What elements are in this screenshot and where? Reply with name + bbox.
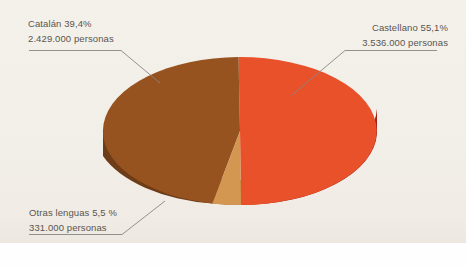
callout-catalan-percent: Catalán 39,4% [28, 16, 114, 31]
callout-otras-count: 331.000 personas [29, 220, 117, 235]
slice-top-catalan [103, 57, 240, 204]
pie-chart-figure: Catalán 39,4% 2.429.000 personas Castell… [0, 0, 466, 268]
callout-label-catalan: Catalán 39,4% 2.429.000 personas [28, 16, 114, 46]
slice-top-castellano [239, 57, 377, 205]
callout-castellano-percent: Castellano 55,1% [362, 20, 448, 35]
callout-castellano-count: 3.536.000 personas [362, 35, 448, 50]
pie-top-faces [103, 57, 377, 205]
callout-label-castellano: Castellano 55,1% 3.536.000 personas [362, 20, 448, 50]
callout-label-otras: Otras lenguas 5,5 % 331.000 personas [29, 205, 117, 235]
callout-catalan-count: 2.429.000 personas [28, 31, 114, 46]
leader-line-catalan [29, 51, 160, 84]
callout-otras-percent: Otras lenguas 5,5 % [29, 205, 117, 220]
